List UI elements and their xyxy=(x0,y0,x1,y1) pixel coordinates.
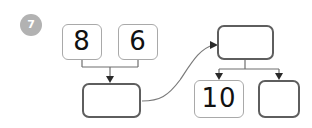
arrowhead-into-sum-box xyxy=(106,76,114,83)
part-answer-box[interactable] xyxy=(258,80,300,118)
arrowhead-into-part-box xyxy=(275,73,283,80)
addend-box-eight-value: 8 xyxy=(73,28,91,54)
whole-answer-box[interactable] xyxy=(217,25,274,60)
addend-box-eight[interactable]: 8 xyxy=(62,24,102,60)
part-box-ten[interactable]: 10 xyxy=(194,80,244,118)
part-box-ten-value: 10 xyxy=(201,85,236,111)
sum-answer-box[interactable] xyxy=(82,83,141,118)
worksheet-canvas: 7 8 6 xyxy=(0,0,312,128)
addend-box-six-value: 6 xyxy=(129,28,147,54)
question-number-badge: 7 xyxy=(20,14,42,36)
addend-box-six[interactable]: 6 xyxy=(118,24,158,60)
arrowhead-into-ten-box xyxy=(215,73,223,80)
